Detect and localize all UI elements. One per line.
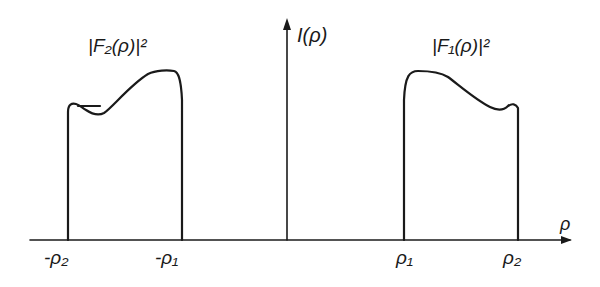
- x-axis-arrow: [561, 236, 572, 244]
- tick-label-rho1: ρ₁: [395, 247, 413, 268]
- curve-f2-label: |F₂(ρ)|²: [88, 35, 147, 56]
- intensity-diagram: I(ρ) ρ |F₂(ρ)|² |F₁(ρ)|² -ρ₂ -ρ₁ ρ₁ ρ₂: [0, 0, 600, 287]
- tick-label-rho2: ρ₂: [502, 247, 522, 268]
- x-axis-label: ρ: [559, 214, 570, 234]
- tick-label-neg-rho1: -ρ₁: [155, 247, 178, 268]
- curve-f2: [68, 70, 182, 240]
- tick-label-neg-rho2: -ρ₂: [44, 247, 69, 268]
- y-axis-arrow: [283, 18, 291, 30]
- curve-f1-label: |F₁(ρ)|²: [432, 35, 490, 56]
- curve-f1: [404, 71, 518, 240]
- y-axis-label: I(ρ): [297, 24, 327, 46]
